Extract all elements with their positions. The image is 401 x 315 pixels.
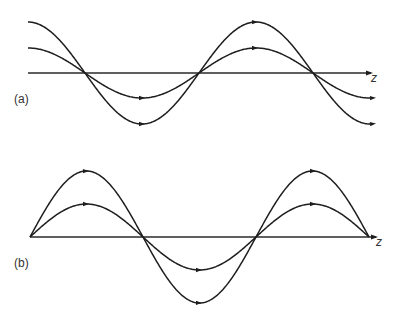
panel-b: (b) z bbox=[14, 169, 382, 306]
direction-arrow-icon bbox=[83, 202, 89, 206]
direction-arrow-icon bbox=[370, 96, 376, 101]
axis-label-z-a: z bbox=[370, 71, 377, 85]
direction-arrow-icon bbox=[310, 169, 316, 174]
panel-a: (a) z bbox=[14, 20, 377, 127]
direction-arrow-icon bbox=[139, 122, 145, 126]
panel-label-b: (b) bbox=[14, 256, 29, 270]
direction-arrow-icon bbox=[252, 20, 258, 25]
panel-label-a: (a) bbox=[14, 92, 29, 106]
direction-arrow-icon bbox=[370, 121, 376, 126]
wave-diagram: (a) z (b) z bbox=[0, 0, 401, 315]
direction-arrow-icon bbox=[196, 268, 202, 272]
direction-arrow-icon bbox=[83, 169, 89, 174]
axis-label-z-b: z bbox=[375, 235, 382, 249]
direction-arrow-icon bbox=[310, 202, 316, 206]
direction-arrow-icon bbox=[139, 96, 145, 100]
direction-arrow-icon bbox=[196, 301, 202, 306]
direction-arrow-icon bbox=[252, 46, 258, 51]
